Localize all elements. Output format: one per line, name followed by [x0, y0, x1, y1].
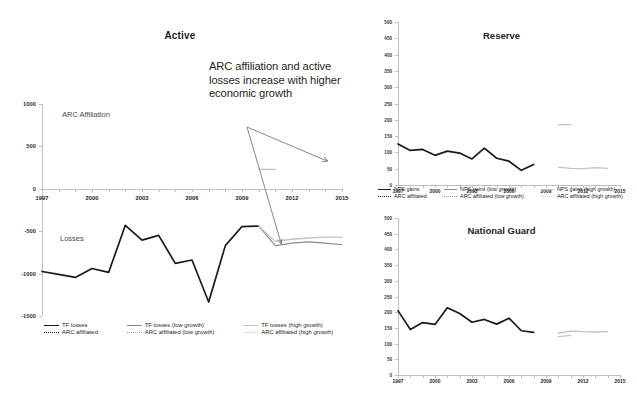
- series-layer-reserve: [398, 22, 620, 185]
- x-tick-label-guard-3: 2006: [504, 379, 515, 384]
- y-tick-label-reserve-7: 350: [384, 68, 392, 73]
- y-tick-label-active-4: -1000: [21, 271, 36, 277]
- x-tick-guard-1998: [410, 375, 411, 378]
- legend-label: ARC affiliated (high growth): [557, 193, 623, 199]
- series-line-active-2: [259, 226, 342, 241]
- legend-swatch-icon: [541, 196, 554, 197]
- x-tick-guard-2008: [534, 375, 535, 378]
- legend-swatch-icon: [44, 332, 59, 333]
- x-tick-guard-1997: [398, 375, 399, 378]
- series-layer-guard: [398, 218, 620, 375]
- y-tick-label-guard-9: 450: [384, 231, 392, 236]
- legend-swatch-icon: [243, 325, 258, 326]
- x-tick-label-guard-1: 2000: [430, 379, 441, 384]
- legend-label: ARC affiliated: [394, 193, 427, 199]
- legend-reserve: NPS gainsNPS gains (low growth)NPS gains…: [378, 186, 634, 199]
- y-tick-label-active-0: 1000: [23, 101, 36, 107]
- legend-label: ARC affiliated: [62, 329, 98, 335]
- legend-label: ARC affiliated (high growth): [261, 329, 333, 335]
- y-tick-label-reserve-2: 100: [384, 150, 392, 155]
- x-tick-guard-2003: [472, 375, 473, 378]
- series-line-guard-0: [398, 308, 534, 333]
- y-tick-label-guard-1: 50: [387, 357, 392, 362]
- legend-item[interactable]: TF losses: [44, 322, 121, 328]
- legend-active: TF lossesTF losses (low growth)TF losses…: [44, 322, 356, 335]
- x-tick-active-2015: [342, 189, 343, 192]
- plot-area-reserve: 0501001502002503003504004505001997200020…: [398, 22, 620, 185]
- y-tick-label-guard-4: 200: [384, 310, 392, 315]
- legend-item[interactable]: TF losses (high growth): [243, 322, 356, 328]
- legend-swatch-icon: [444, 189, 457, 190]
- legend-swatch-icon: [127, 325, 142, 326]
- series-line-active-1: [259, 226, 342, 246]
- y-tick-label-guard-8: 400: [384, 247, 392, 252]
- legend-label: NPS gains: [394, 186, 419, 192]
- x-tick-guard-2005: [497, 375, 498, 378]
- legend-item[interactable]: ARC affiliated (high growth): [541, 193, 634, 199]
- legend-item[interactable]: NPS gains (high growth): [541, 186, 634, 192]
- x-tick-guard-2013: [595, 375, 596, 378]
- legend-item[interactable]: ARC affiliated (high growth): [243, 329, 356, 335]
- y-tick-label-reserve-1: 50: [387, 166, 392, 171]
- x-tick-guard-2011: [571, 375, 572, 378]
- y-tick-label-reserve-9: 450: [384, 36, 392, 41]
- y-tick-label-guard-6: 300: [384, 278, 392, 283]
- legend-swatch-icon: [378, 196, 391, 197]
- series-line-guard-1: [558, 331, 607, 333]
- x-tick-label-guard-4: 2009: [541, 379, 552, 384]
- plot-area-active: 10005000-500-1000-1500199720002003200620…: [42, 104, 342, 316]
- legend-item[interactable]: ARC affiliated (low growth): [127, 329, 237, 335]
- y-tick-label-reserve-8: 400: [384, 52, 392, 57]
- x-tick-guard-2000: [435, 375, 436, 378]
- series-line-reserve-0: [398, 144, 534, 170]
- series-line-guard-2: [558, 335, 570, 336]
- y-tick-label-guard-7: 350: [384, 263, 392, 268]
- panel-active: Active 10005000-500-1000-150019972000200…: [0, 0, 360, 360]
- x-tick-guard-2012: [583, 375, 584, 378]
- legend-swatch-icon: [243, 332, 258, 333]
- y-tick-label-reserve-5: 250: [384, 101, 392, 106]
- legend-label: TF losses (high growth): [261, 322, 323, 328]
- legend-swatch-icon: [44, 325, 59, 326]
- x-tick-guard-2007: [521, 375, 522, 378]
- x-tick-guard-2014: [608, 375, 609, 378]
- legend-label: NPS gains (high growth): [557, 186, 615, 192]
- x-tick-guard-2006: [509, 375, 510, 378]
- y-tick-label-guard-0: 0: [389, 373, 392, 378]
- y-tick-label-reserve-10: 500: [384, 20, 392, 25]
- panel-reserve: Reserve 05010015020025030035040045050019…: [366, 6, 637, 211]
- legend-label: TF losses: [62, 322, 88, 328]
- y-tick-label-guard-10: 500: [384, 216, 392, 221]
- x-tick-guard-2002: [460, 375, 461, 378]
- panel-national-guard: National Guard 0501001502002503003504004…: [366, 210, 637, 400]
- y-tick-active-5: [39, 316, 42, 317]
- legend-item[interactable]: TF losses (low growth): [127, 322, 237, 328]
- inplot-label-losses: Losses: [60, 234, 84, 243]
- y-tick-label-reserve-6: 300: [384, 85, 392, 90]
- inplot-label-arc-affiliation: ARC Affiliation: [62, 110, 110, 119]
- legend-swatch-icon: [127, 332, 142, 333]
- y-tick-label-guard-2: 100: [384, 341, 392, 346]
- y-tick-label-active-3: -500: [24, 228, 36, 234]
- panel-title-active: Active: [0, 30, 360, 41]
- x-tick-label-guard-2: 2003: [467, 379, 478, 384]
- figure-root: Active 10005000-500-1000-150019972000200…: [0, 0, 637, 400]
- series-line-reserve-2: [558, 167, 607, 169]
- legend-item[interactable]: ARC affiliated (low growth): [444, 193, 535, 199]
- x-tick-guard-2004: [484, 375, 485, 378]
- legend-swatch-icon: [541, 189, 554, 190]
- legend-item[interactable]: NPS gains: [378, 186, 438, 192]
- y-tick-label-active-1: 500: [26, 143, 36, 149]
- legend-item[interactable]: NPS gains (low growth): [444, 186, 535, 192]
- x-tick-guard-2001: [447, 375, 448, 378]
- legend-item[interactable]: ARC affiliated: [44, 329, 121, 335]
- x-tick-label-guard-6: 2015: [615, 379, 626, 384]
- y-tick-label-active-5: -1500: [21, 313, 36, 319]
- legend-label: ARC affiliated (low growth): [145, 329, 215, 335]
- legend-swatch-icon: [378, 189, 391, 190]
- series-layer-active: [42, 104, 342, 316]
- x-tick-guard-2015: [620, 375, 621, 378]
- legend-label: ARC affiliated (low growth): [460, 193, 524, 199]
- legend-item[interactable]: ARC affiliated: [378, 193, 438, 199]
- legend-label: NPS gains (low growth): [460, 186, 516, 192]
